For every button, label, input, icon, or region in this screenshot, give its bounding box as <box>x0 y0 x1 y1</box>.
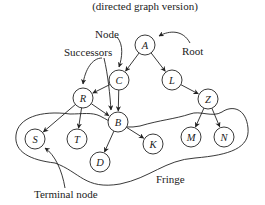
terminal-pointer-arrow <box>45 148 65 188</box>
node-letter: B <box>115 117 122 128</box>
node-A: A <box>135 35 155 55</box>
fringe-boundary <box>16 109 248 186</box>
node-N: N <box>214 127 234 147</box>
edge-A-L <box>151 53 165 71</box>
edge-Z-M <box>195 108 203 127</box>
node-label: Node <box>95 28 119 40</box>
node-letter: N <box>219 132 228 143</box>
node-C: C <box>109 70 129 90</box>
edge-B-K <box>126 127 143 138</box>
edge-A-C <box>126 53 139 71</box>
node-letter: C <box>115 75 123 86</box>
diagram-title: (directed graph version) <box>92 0 198 13</box>
node-Z: Z <box>198 89 218 109</box>
search-tree-diagram: (directed graph version) ACLRBZSTKMND No… <box>0 0 265 205</box>
node-letter: L <box>168 75 175 86</box>
edge-C-R <box>93 84 110 93</box>
edge-C-B <box>118 90 119 111</box>
edge-R-T <box>79 108 82 128</box>
edge-B-D <box>105 131 114 152</box>
edge-Z-N <box>212 108 220 127</box>
root-pointer-arrow <box>159 32 190 43</box>
node-L: L <box>162 70 182 90</box>
node-letter: D <box>95 157 104 168</box>
node-S: S <box>25 129 45 149</box>
successors-pointer-arrow-r <box>83 58 102 84</box>
node-letter: Z <box>205 94 211 105</box>
node-pointer-arrow <box>117 37 122 67</box>
edge-L-Z <box>181 85 198 94</box>
node-letter: M <box>186 132 197 143</box>
node-D: D <box>90 152 110 172</box>
node-letter: K <box>148 139 157 150</box>
node-letter: R <box>79 93 87 104</box>
node-M: M <box>181 127 201 147</box>
node-B: B <box>108 112 128 132</box>
successors-label: Successors <box>64 46 112 58</box>
terminal-node-label: Terminal node <box>34 188 98 200</box>
root-label: Root <box>182 45 203 57</box>
node-T: T <box>67 129 87 149</box>
fringe-label: Fringe <box>156 173 185 185</box>
node-letter: A <box>141 40 149 51</box>
edge-R-S <box>43 104 75 131</box>
node-K: K <box>143 134 163 154</box>
node-R: R <box>73 88 93 108</box>
node-letter: S <box>32 134 38 145</box>
